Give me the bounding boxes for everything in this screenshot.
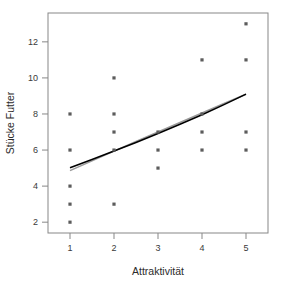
data-point: [112, 203, 115, 206]
data-point: [244, 130, 247, 133]
data-point: [112, 112, 115, 115]
data-point: [112, 148, 115, 151]
y-tick-label: 6: [33, 145, 38, 155]
y-tick-label: 12: [28, 37, 38, 47]
data-point: [112, 130, 115, 133]
x-tick-label: 2: [111, 243, 116, 253]
data-point: [200, 148, 203, 151]
x-tick-label: 1: [67, 243, 72, 253]
data-point: [244, 148, 247, 151]
x-tick-label: 5: [243, 243, 248, 253]
data-point: [156, 148, 159, 151]
data-point: [156, 130, 159, 133]
y-tick-label: 4: [33, 181, 38, 191]
data-point: [68, 112, 71, 115]
data-point: [200, 112, 203, 115]
data-point: [68, 148, 71, 151]
x-tick-label: 4: [199, 243, 204, 253]
x-axis-title: Attraktivität: [132, 265, 184, 277]
data-point: [156, 166, 159, 169]
y-tick-label: 10: [28, 73, 38, 83]
scatter-plot: 12345 24681012 Attraktivität Stücke Futt…: [0, 0, 284, 290]
data-point: [112, 76, 115, 79]
data-point: [68, 185, 71, 188]
y-axis-title: Stücke Futter: [4, 91, 16, 154]
data-point: [244, 58, 247, 61]
chart-container: 12345 24681012 Attraktivität Stücke Futt…: [0, 0, 284, 290]
data-point: [68, 203, 71, 206]
chart-background: [0, 0, 284, 290]
x-tick-label: 3: [155, 243, 160, 253]
data-point: [200, 130, 203, 133]
y-tick-label: 8: [33, 109, 38, 119]
data-point: [244, 22, 247, 25]
data-point: [68, 221, 71, 224]
data-point: [200, 58, 203, 61]
y-tick-label: 2: [33, 217, 38, 227]
